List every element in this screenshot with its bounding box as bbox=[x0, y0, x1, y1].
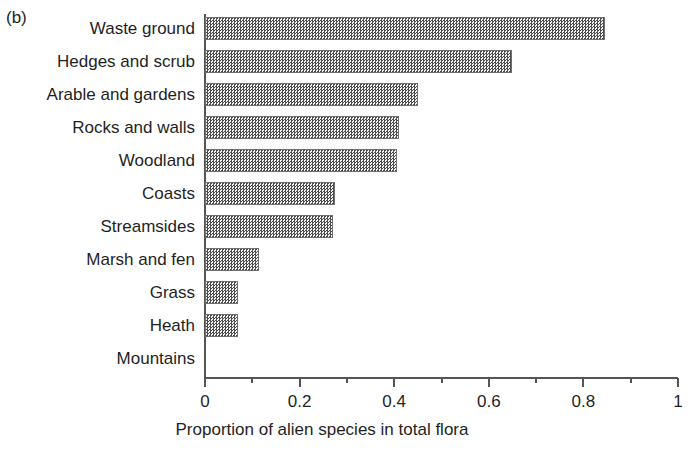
bar-row bbox=[205, 281, 678, 304]
category-label-text: Hedges and scrub bbox=[57, 52, 195, 72]
x-tick-label: 0 bbox=[200, 392, 209, 412]
bar-row bbox=[205, 149, 678, 172]
bar-row bbox=[205, 17, 678, 40]
panel-label: (b) bbox=[6, 8, 27, 28]
category-label-text: Coasts bbox=[142, 184, 195, 204]
bar-row bbox=[205, 215, 678, 238]
bar bbox=[205, 281, 238, 304]
bar bbox=[205, 17, 605, 40]
x-axis-title-text: Proportion of alien species in total flo… bbox=[176, 420, 469, 440]
x-tick-minor bbox=[630, 378, 632, 383]
x-tick-label: 0.4 bbox=[382, 392, 406, 412]
category-label-text: Heath bbox=[150, 316, 195, 336]
category-label-text: Streamsides bbox=[101, 217, 195, 237]
x-tick-minor bbox=[346, 378, 348, 383]
bar bbox=[205, 149, 397, 172]
x-tick-label: 0.8 bbox=[572, 392, 596, 412]
bar bbox=[205, 314, 238, 337]
x-tick-label: 1 bbox=[673, 392, 682, 412]
x-tick-label: 0.2 bbox=[288, 392, 312, 412]
x-axis-title: Proportion of alien species in total flo… bbox=[0, 420, 688, 440]
x-tick-major bbox=[677, 378, 679, 387]
category-label-text: Rocks and walls bbox=[72, 118, 195, 138]
bar-row bbox=[205, 83, 678, 106]
x-tick-minor bbox=[441, 378, 443, 383]
plot-area: Waste groundHedges and scrubArable and g… bbox=[205, 14, 678, 377]
x-tick-label: 0.6 bbox=[477, 392, 501, 412]
x-tick-major bbox=[582, 378, 584, 387]
x-tick-major bbox=[299, 378, 301, 387]
category-label-text: Arable and gardens bbox=[47, 85, 195, 105]
x-tick-minor bbox=[535, 378, 537, 383]
bar-row bbox=[205, 116, 678, 139]
x-tick-major bbox=[488, 378, 490, 387]
x-tick-minor bbox=[251, 378, 253, 383]
bar bbox=[205, 116, 399, 139]
x-tick-major bbox=[204, 378, 206, 387]
x-tick-major bbox=[393, 378, 395, 387]
bar bbox=[205, 248, 259, 271]
bar bbox=[205, 182, 335, 205]
bar-row bbox=[205, 50, 678, 73]
bar bbox=[205, 50, 512, 73]
category-label-text: Woodland bbox=[119, 151, 195, 171]
bar-row bbox=[205, 347, 678, 370]
bar-row bbox=[205, 248, 678, 271]
category-label-text: Marsh and fen bbox=[86, 250, 195, 270]
figure-panel-b: (b) Waste groundHedges and scrubArable a… bbox=[0, 0, 688, 451]
bar bbox=[205, 215, 333, 238]
category-label-text: Grass bbox=[150, 283, 195, 303]
bar-row bbox=[205, 182, 678, 205]
category-label-text: Mountains bbox=[117, 349, 195, 369]
category-label-text: Waste ground bbox=[90, 19, 195, 39]
bar-row bbox=[205, 314, 678, 337]
bar bbox=[205, 83, 418, 106]
